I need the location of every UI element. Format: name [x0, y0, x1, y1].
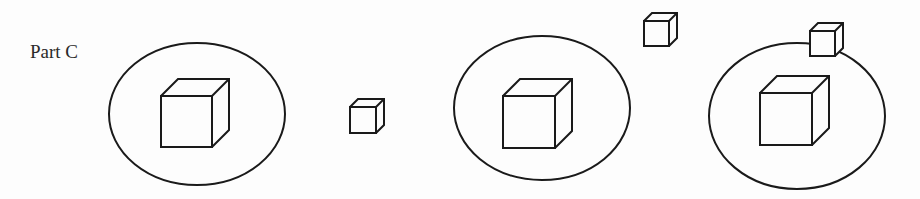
cube-large-in-ellipse-1	[161, 79, 229, 147]
cube-large-in-ellipse-3	[760, 76, 829, 145]
diagram-canvas: Part C	[0, 0, 920, 199]
figure-svg	[0, 0, 920, 199]
cube-small-above	[644, 13, 677, 46]
cube-small-between	[350, 99, 384, 133]
cube-large-in-ellipse-2	[503, 79, 572, 148]
cube-small-on-border	[810, 23, 843, 56]
